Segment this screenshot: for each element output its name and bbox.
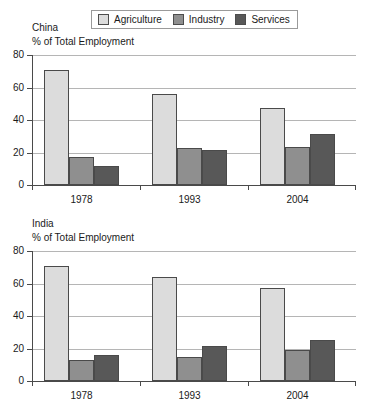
bar-agriculture-1978 <box>44 266 69 381</box>
x-axis-label-1978: 1978 <box>70 390 92 401</box>
bar-agriculture-2004 <box>260 108 285 185</box>
bar-services-1993 <box>202 346 227 381</box>
chart-legend: AgricultureIndustryServices <box>91 10 298 29</box>
bar-services-1993 <box>202 150 227 185</box>
bar-industry-2004 <box>285 350 310 381</box>
y-axis-line <box>32 251 33 381</box>
gridline-80 <box>32 55 356 56</box>
x-tick-2004 <box>248 185 249 190</box>
y-tick-label-20: 20 <box>13 148 24 158</box>
y-tick-label-60: 60 <box>13 83 24 93</box>
bar-industry-1993 <box>177 357 202 381</box>
bar-agriculture-1978 <box>44 70 69 185</box>
y-tick-label-0: 0 <box>18 180 24 190</box>
gridline-40 <box>32 316 356 317</box>
x-tick-1993 <box>140 185 141 190</box>
legend-swatch-agriculture <box>98 14 109 25</box>
plot-area-china: 020406080197819932004 <box>32 55 356 185</box>
bar-services-2004 <box>310 134 335 185</box>
legend-item-services: Services <box>235 14 289 25</box>
x-axis-label-1978: 1978 <box>70 194 92 205</box>
x-tick-edge-0 <box>32 185 33 190</box>
chart-page: AgricultureIndustryServices China % of T… <box>0 0 368 413</box>
x-axis-label-2004: 2004 <box>286 194 308 205</box>
y-tick-label-0: 0 <box>18 376 24 386</box>
y-tick-label-60: 60 <box>13 279 24 289</box>
x-axis-line <box>32 185 356 186</box>
legend-label-services: Services <box>251 15 289 25</box>
x-tick-edge-0 <box>32 381 33 386</box>
x-tick-edge-1 <box>355 381 356 386</box>
x-axis-label-2004: 2004 <box>286 390 308 401</box>
panel-title-india: India <box>32 218 54 229</box>
bar-agriculture-1993 <box>152 277 177 381</box>
legend-swatch-services <box>235 14 246 25</box>
bar-industry-1978 <box>69 157 94 185</box>
legend-label-agriculture: Agriculture <box>114 15 162 25</box>
y-tick-label-40: 40 <box>13 311 24 321</box>
panel-title-china: China <box>32 22 58 33</box>
bar-industry-2004 <box>285 147 310 185</box>
bar-industry-1978 <box>69 360 94 381</box>
gridline-40 <box>32 120 356 121</box>
x-axis-line <box>32 381 356 382</box>
bar-services-1978 <box>94 166 119 186</box>
bar-agriculture-2004 <box>260 288 285 381</box>
gridline-80 <box>32 251 356 252</box>
legend-item-agriculture: Agriculture <box>98 14 162 25</box>
y-tick-label-80: 80 <box>13 246 24 256</box>
panel-axis-title-india: % of Total Employment <box>32 232 134 243</box>
plot-area-india: 020406080197819932004 <box>32 251 356 381</box>
gridline-60 <box>32 88 356 89</box>
legend-label-industry: Industry <box>189 15 225 25</box>
y-axis-line <box>32 55 33 185</box>
y-tick-label-40: 40 <box>13 115 24 125</box>
bar-agriculture-1993 <box>152 94 177 185</box>
x-tick-edge-1 <box>355 185 356 190</box>
x-tick-2004 <box>248 381 249 386</box>
y-tick-label-20: 20 <box>13 344 24 354</box>
legend-item-industry: Industry <box>173 14 225 25</box>
legend-swatch-industry <box>173 14 184 25</box>
y-tick-label-80: 80 <box>13 50 24 60</box>
x-axis-label-1993: 1993 <box>178 194 200 205</box>
bar-services-1978 <box>94 355 119 381</box>
panel-axis-title-china: % of Total Employment <box>32 36 134 47</box>
x-axis-label-1993: 1993 <box>178 390 200 401</box>
gridline-60 <box>32 284 356 285</box>
bar-industry-1993 <box>177 148 202 185</box>
bar-services-2004 <box>310 340 335 381</box>
x-tick-1993 <box>140 381 141 386</box>
